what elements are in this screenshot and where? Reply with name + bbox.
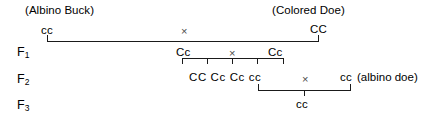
p-bracket-span <box>47 41 319 42</box>
generation-label-f3-subscript: 3 <box>25 103 30 113</box>
cross-symbol-f2-testcross: × <box>302 74 308 85</box>
f1-bracket-tick-1 <box>207 58 208 64</box>
f1-bracket-tick-3 <box>257 58 258 64</box>
colored-doe-caption: (Colored Doe) <box>272 5 345 17</box>
generation-label-f2-subscript: 2 <box>25 77 30 87</box>
parent-genotype-colored-doe: CC <box>310 24 327 36</box>
f2-testcross-partner-genotype: cc <box>340 72 352 84</box>
f2-bracket-centre-tick <box>304 90 305 96</box>
p-bracket-right-stem <box>318 35 319 42</box>
genetics-cross-diagram: (Albino Buck) (Colored Doe) cc × CC F1 F… <box>0 0 439 118</box>
generation-label-f3: F3 <box>17 99 29 112</box>
f2-bracket-right-stem <box>350 84 351 91</box>
generation-label-f1: F1 <box>17 46 29 59</box>
f1-genotype-left: Cc <box>176 47 191 59</box>
f2-offspring-genotypes: CC Cc Cc cc <box>189 72 261 84</box>
f2-testcross-partner-note: (albino doe) <box>357 72 418 84</box>
generation-label-f1-subscript: 1 <box>25 50 30 60</box>
f1-bracket-tick-2 <box>232 58 233 64</box>
f1-bracket-right-stem <box>283 58 284 64</box>
f3-offspring-genotype: cc <box>296 99 308 111</box>
generation-label-f1-letter: F <box>17 45 25 59</box>
cross-symbol-p-generation: × <box>181 26 187 37</box>
generation-label-f2: F2 <box>17 73 29 86</box>
f1-genotype-right: Cc <box>268 47 283 59</box>
albino-buck-caption: (Albino Buck) <box>25 5 94 17</box>
generation-label-f3-letter: F <box>17 98 25 112</box>
generation-label-f2-letter: F <box>17 72 25 86</box>
